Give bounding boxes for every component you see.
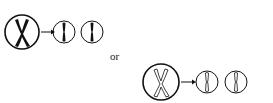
bottom-daughter-cell-2 xyxy=(225,71,247,93)
bottom-parent-cell xyxy=(143,64,179,100)
or-label: or xyxy=(110,50,119,62)
bottom-arrow xyxy=(181,80,196,85)
chromosome-diagram xyxy=(0,0,273,103)
top-daughter-cell-1 xyxy=(53,21,75,43)
top-parent-cell xyxy=(5,15,39,49)
top-daughter-cell-2 xyxy=(81,21,103,43)
bottom-daughter-cell-1 xyxy=(196,71,218,93)
